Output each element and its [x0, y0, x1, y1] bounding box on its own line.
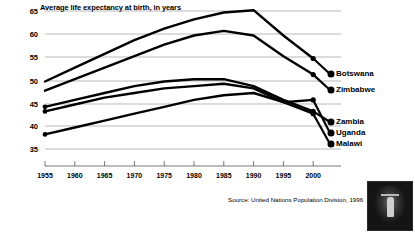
startpoint-dot-uganda: [43, 109, 48, 114]
x-axis-tick-1980: 1980: [179, 172, 209, 179]
x-axis-tick-1955: 1955: [30, 172, 60, 179]
series-line-zimbabwe: [45, 31, 313, 91]
x-axis-line: [45, 161, 341, 166]
x-axis-tick-1985: 1985: [209, 172, 239, 179]
series-line-zambia: [45, 79, 313, 111]
emblem-figure: [387, 197, 394, 217]
series-label-uganda: Uganda: [336, 128, 365, 137]
x-axis-tick-1965: 1965: [90, 172, 120, 179]
emblem-crossbar: [381, 194, 399, 196]
x-axis-tick-1995: 1995: [268, 172, 298, 179]
life-expectancy-chart: Average life expectancy at birth, in yea…: [0, 0, 415, 232]
x-axis-tick-1970: 1970: [119, 172, 149, 179]
series-label-zimbabwe: Zimbabwe: [336, 85, 375, 94]
series-label-zambia: Zambia: [336, 117, 364, 126]
emblem-graphic: [372, 186, 408, 226]
x-axis-tick-1960: 1960: [60, 172, 90, 179]
x-axis-tick-1975: 1975: [149, 172, 179, 179]
series-label-malawi: Malawi: [336, 139, 362, 148]
series-line-botswana: [45, 10, 313, 81]
startpoint-dot-malawi: [43, 132, 48, 137]
x-axis-tick-2000: 2000: [298, 172, 328, 179]
x-axis-tick-1990: 1990: [239, 172, 269, 179]
series-line-malawi: [45, 93, 313, 134]
publication-emblem-icon: [367, 181, 413, 231]
series-label-botswana: Botswana: [336, 69, 374, 78]
startpoint-dot-zambia: [43, 104, 48, 109]
source-caption: Source: United Nations Population Divisi…: [228, 196, 363, 203]
label-leader-lines: [313, 59, 333, 147]
